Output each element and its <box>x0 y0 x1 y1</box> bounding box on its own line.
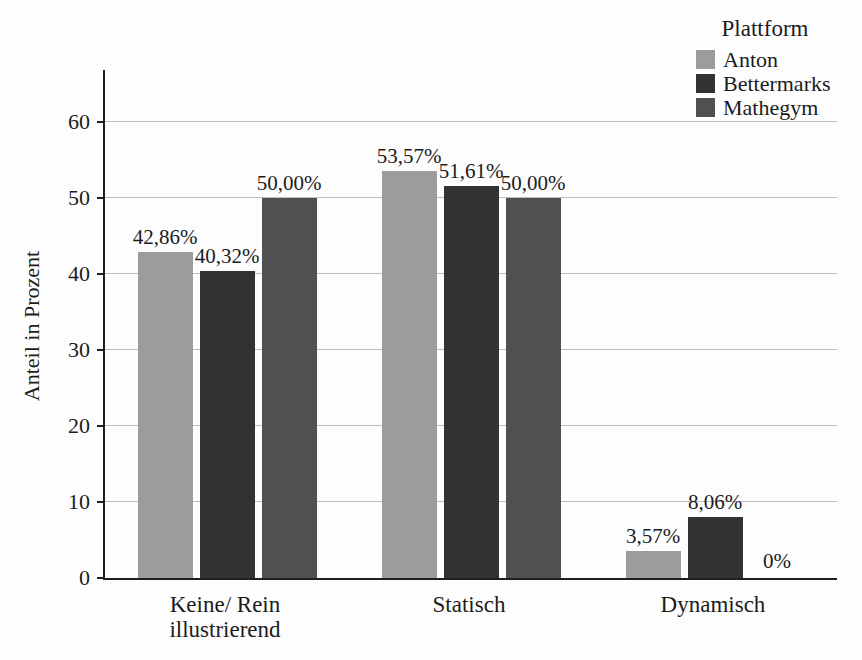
bar-value-label: 50,00% <box>224 172 354 194</box>
bar <box>626 551 681 578</box>
x-category-label: Keine/ Reinillustrierend <box>103 592 347 642</box>
bar-chart-figure: Anteil in Prozent 0102030405060 42,86%40… <box>0 0 862 660</box>
legend-item: Bettermarks <box>696 72 840 95</box>
x-category-label: Dynamisch <box>591 592 835 642</box>
legend-item-label: Anton <box>723 49 778 71</box>
bar <box>382 171 437 578</box>
gridline <box>105 121 837 122</box>
y-tick-label: 40 <box>28 263 90 285</box>
x-axis-labels: Keine/ ReinillustrierendStatischDynamisc… <box>103 592 835 642</box>
y-tick-label: 0 <box>28 567 90 589</box>
y-tick-label: 20 <box>28 415 90 437</box>
legend-swatch <box>696 74 715 93</box>
legend-item-label: Mathegym <box>723 97 818 119</box>
y-tick-label: 30 <box>28 339 90 361</box>
bar <box>138 252 193 578</box>
y-axis-title: Anteil in Prozent <box>20 231 46 421</box>
y-tick-label: 60 <box>28 111 90 133</box>
y-tick-label: 50 <box>28 187 90 209</box>
legend-item: Mathegym <box>696 96 840 119</box>
bar <box>200 271 255 578</box>
legend-item-label: Bettermarks <box>723 73 831 95</box>
bar <box>444 186 499 578</box>
x-category-label: Statisch <box>347 592 591 642</box>
bar <box>506 198 561 578</box>
bar-value-label: 3,57% <box>588 525 718 547</box>
bar-value-label: 40,32% <box>162 245 292 267</box>
legend-item: Anton <box>696 48 840 71</box>
legend-swatch <box>696 98 715 117</box>
bar-value-label: 0% <box>712 550 842 572</box>
legend-title: Plattform <box>690 16 840 42</box>
bar-value-label: 8,06% <box>650 491 780 513</box>
bar-value-label: 50,00% <box>468 172 598 194</box>
plot-area: 42,86%40,32%50,00%53,57%51,61%50,00%3,57… <box>103 70 837 580</box>
legend: Plattform AntonBettermarksMathegym <box>690 16 840 120</box>
y-tick-label: 10 <box>28 491 90 513</box>
legend-items: AntonBettermarksMathegym <box>690 48 840 119</box>
legend-swatch <box>696 50 715 69</box>
